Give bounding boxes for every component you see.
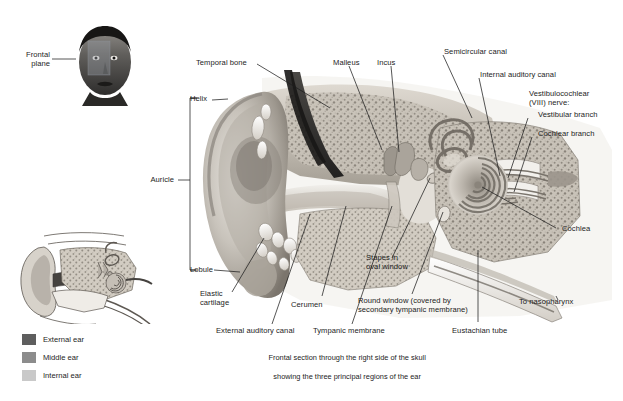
- region-legend: External ear Middle ear Internal ear: [22, 331, 84, 385]
- legend-label-external-ear: External ear: [43, 335, 84, 344]
- label-cochlear-branch: Cochlear branch: [538, 129, 594, 138]
- legend-swatch-middle-ear: [22, 352, 36, 363]
- cochlea-spiral: [448, 155, 508, 215]
- label-cochlea: Cochlea: [562, 224, 590, 233]
- label-tympanic-membrane: Tympanic membrane: [313, 326, 385, 335]
- frontal-plane-head-inset: [79, 26, 131, 106]
- leader-helix: [212, 99, 228, 100]
- label-vestibular-branch: Vestibular branch: [538, 110, 598, 119]
- bracket-auricle: [190, 98, 196, 270]
- label-round-window: Round window (covered bysecondary tympan…: [358, 296, 468, 314]
- label-internal-auditory-canal: Internal auditory canal: [480, 70, 556, 79]
- legend-item-middle-ear: Middle ear: [22, 349, 84, 365]
- main-ear-cross-section: [203, 70, 612, 322]
- label-semicircular-canal: Semicircular canal: [444, 47, 507, 56]
- ear-overview-inset: [21, 233, 152, 330]
- label-incus: Incus: [377, 58, 395, 67]
- label-malleus: Malleus: [333, 58, 360, 67]
- label-lobule: Lobule: [190, 265, 213, 274]
- legend-item-external-ear: External ear: [22, 331, 84, 347]
- ear-anatomy-figure: Frontalplane Helix Auricle Lobule Tempor…: [0, 0, 623, 401]
- label-to-nasopharynx: To nasopharynx: [519, 297, 573, 306]
- label-vestibulocochlear-nerve: Vestibulocochlear(VIII) nerve:: [529, 89, 589, 107]
- legend-label-internal-ear: Internal ear: [43, 371, 81, 380]
- label-frontal-plane: Frontalplane: [6, 50, 50, 68]
- figure-caption: Frontal section through the right side o…: [228, 344, 458, 391]
- legend-label-middle-ear: Middle ear: [43, 353, 78, 362]
- legend-swatch-external-ear: [22, 334, 36, 345]
- legend-item-internal-ear: Internal ear: [22, 367, 84, 383]
- legend-swatch-internal-ear: [22, 370, 36, 381]
- label-eustachian-tube: Eustachian tube: [452, 326, 507, 335]
- label-cerumen: Cerumen: [291, 300, 323, 309]
- label-elastic-cartilage: Elasticcartilage: [200, 289, 229, 307]
- label-stapes-oval-window: Stapes inoval window: [366, 253, 408, 271]
- label-external-auditory-canal: External auditory canal: [216, 326, 294, 335]
- illustration-canvas: [0, 0, 623, 401]
- label-helix: Helix: [190, 94, 207, 103]
- label-auricle: Auricle: [128, 175, 174, 184]
- label-temporal-bone: Temporal bone: [196, 58, 247, 67]
